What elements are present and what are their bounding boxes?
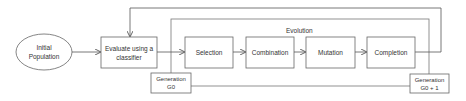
generation-g0-plus-1-label: Generation G0 + 1 — [412, 75, 447, 92]
selection-label: Selection — [186, 38, 232, 67]
initial-population-label: Initial Population — [22, 40, 66, 64]
evaluate-label: Evaluate using a classifier — [102, 38, 156, 67]
completion-label: Completion — [368, 38, 414, 67]
generation-g0-label: Generation G0 — [155, 74, 187, 92]
combination-label: Combination — [247, 38, 293, 67]
mutation-label: Mutation — [307, 38, 354, 67]
evolution-group-label: Evolution — [286, 27, 313, 34]
